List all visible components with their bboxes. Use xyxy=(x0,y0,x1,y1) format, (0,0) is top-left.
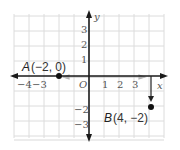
y-tick-neg2: −2 xyxy=(74,104,89,115)
x-tick-1: 1 xyxy=(102,79,108,90)
y-axis-label: y xyxy=(93,11,100,22)
x-tick-neg3: −3 xyxy=(32,79,47,90)
point-a-coords: (−2, 0) xyxy=(31,60,66,74)
y-tick-1: 1 xyxy=(81,54,87,65)
point-a-name: A xyxy=(21,60,30,74)
point-b: B (4, −2) xyxy=(104,104,154,125)
origin-label: O xyxy=(79,79,87,90)
y-tick-neg3: −3 xyxy=(74,119,89,130)
point-b-name: B xyxy=(104,111,112,125)
y-tick-3: 3 xyxy=(81,24,87,35)
x-tick-2: 2 xyxy=(117,79,123,90)
x-tick-neg4: −4 xyxy=(17,79,32,90)
y-tick-2: 2 xyxy=(81,39,87,50)
x-axis-label: x xyxy=(157,80,163,91)
x-tick-3: 3 xyxy=(132,79,138,90)
point-b-coords: (4, −2) xyxy=(113,111,148,125)
coordinate-plane: y x O 3 2 1 −2 −3 −4 −3 1 2 3 A (−2, 0) … xyxy=(0,0,180,150)
